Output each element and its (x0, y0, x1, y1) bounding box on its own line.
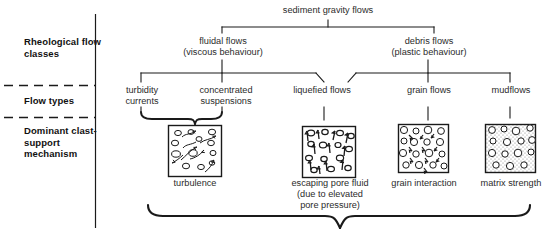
connector-root (222, 20, 434, 33)
connector-debris (348, 60, 510, 82)
mechanism-panels (169, 125, 536, 178)
sediment-gravity-flow-diagram: Rheological flow classes Flow types Domi… (0, 0, 550, 234)
panel-escaping-pore-fluid (303, 127, 356, 178)
brace-turbulence (141, 112, 222, 124)
panel-turbulence (169, 126, 222, 177)
connector-flowtype-drops (141, 107, 510, 120)
brace-bottom-summary (148, 205, 530, 228)
panel-matrix-strength (486, 125, 536, 173)
connector-fluidal (141, 60, 324, 82)
panel-grain-interaction (399, 125, 449, 175)
